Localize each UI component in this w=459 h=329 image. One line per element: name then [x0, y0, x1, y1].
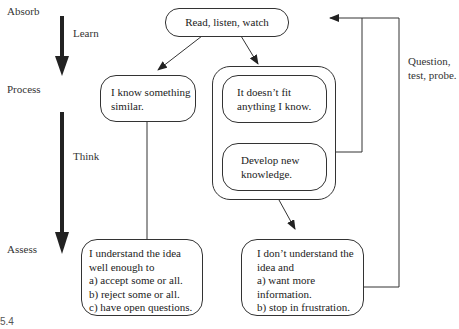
node-line: I don’t understand the — [257, 247, 363, 261]
node-line: anything I know. — [237, 100, 326, 114]
node-understand-idea: I understand the idea well enough to a) … — [81, 239, 203, 316]
node-doesnt-fit: It doesn’t fit anything I know. — [222, 75, 327, 123]
node-dont-understand: I don’t understand the idea and a) want … — [241, 239, 364, 316]
node-line: a) accept some or all. — [89, 274, 202, 288]
node-line: Develop new — [241, 154, 326, 168]
node-line: knowledge. — [241, 168, 326, 182]
feedback-label: Question, test, probe. — [408, 54, 457, 82]
node-line: It doesn’t fit — [237, 86, 326, 100]
node-know-something-similar: I know something similar. — [100, 75, 196, 122]
node-line: I understand the idea — [89, 247, 202, 261]
learn-arrow-icon — [55, 16, 69, 76]
feedback-label-line: Question, — [408, 54, 457, 68]
node-label: Read, listen, watch — [166, 16, 288, 30]
node-line: idea and — [257, 261, 363, 275]
node-line: I know something — [111, 86, 195, 100]
node-develop-knowledge: Develop new knowledge. — [222, 143, 327, 191]
node-read-listen-watch: Read, listen, watch — [165, 8, 289, 37]
think-arrow-icon — [55, 112, 69, 254]
node-line: c) have open questions. — [89, 301, 202, 315]
stage-label-absorb: Absorb — [7, 5, 39, 18]
node-line: similar. — [111, 100, 195, 114]
arrow-label-think: Think — [73, 150, 99, 163]
node-line: information. — [257, 288, 363, 302]
node-line: b) reject some or all. — [89, 288, 202, 302]
node-line: a) want more — [257, 274, 363, 288]
node-line: well enough to — [89, 261, 202, 275]
figure-caption: 5.4 — [0, 316, 14, 327]
stage-label-assess: Assess — [7, 243, 37, 256]
stage-label-process: Process — [7, 83, 41, 96]
feedback-label-line: test, probe. — [408, 68, 457, 82]
arrow-label-learn: Learn — [73, 27, 99, 40]
node-line: b) stop in frustration. — [257, 301, 363, 315]
